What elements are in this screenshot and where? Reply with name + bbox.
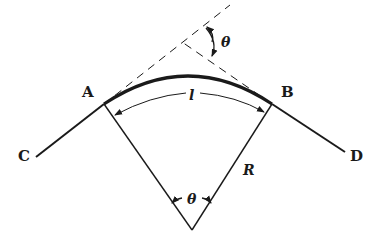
radius-label: R xyxy=(242,162,255,178)
dashed-tangent-b-extension xyxy=(182,42,272,104)
central-angle-arc-right xyxy=(202,198,211,203)
radius-line-b xyxy=(192,104,272,230)
point-label-a: A xyxy=(81,83,94,101)
arc-length-label: l xyxy=(189,87,194,103)
deflection-angle-label: θ xyxy=(221,34,231,50)
deflection-angle-arc xyxy=(206,28,214,56)
arc-length-dimension-left xyxy=(115,93,186,115)
point-label-d: D xyxy=(350,147,363,165)
arc-length-dimension-right xyxy=(200,93,264,112)
point-label-b: B xyxy=(281,83,294,101)
tangent-line-bd xyxy=(272,104,345,152)
dashed-tangent-a-extension xyxy=(104,5,230,104)
radius-line-a xyxy=(104,104,192,230)
point-label-c: C xyxy=(18,147,30,165)
central-angle-label: θ xyxy=(187,191,197,207)
circular-curve-arc xyxy=(104,76,272,104)
curve-diagram: A B C D l R θ θ xyxy=(0,0,373,246)
central-angle-arc-left xyxy=(172,198,182,203)
tangent-line-ca xyxy=(36,104,104,157)
